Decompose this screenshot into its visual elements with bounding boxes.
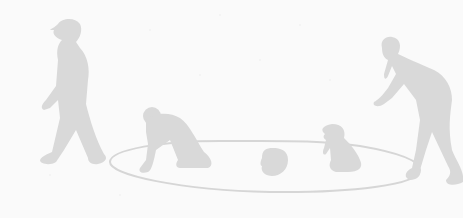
illustration-scene	[0, 0, 463, 218]
silhouette-illustration	[0, 0, 463, 218]
